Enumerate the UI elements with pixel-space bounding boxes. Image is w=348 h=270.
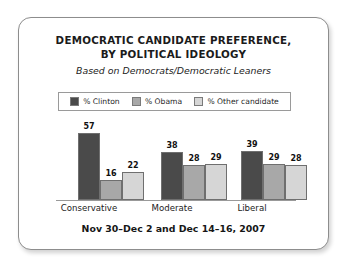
bar	[100, 180, 122, 200]
bar-value-label: 22	[127, 161, 138, 170]
bar-item: 38	[161, 122, 183, 200]
bar	[241, 151, 263, 200]
bar-item: 16	[100, 122, 122, 200]
chart-plot-area: 571622382829392928	[56, 122, 294, 200]
bar-item: 57	[78, 122, 100, 200]
bar	[205, 164, 227, 200]
bar-value-label: 29	[210, 153, 221, 162]
legend-item-other: % Other candidate	[194, 97, 278, 106]
bar	[78, 133, 100, 200]
bar-group-moderate: 382829	[161, 122, 227, 200]
bar-value-label: 38	[166, 141, 177, 150]
bar	[183, 165, 205, 200]
chart-card: DEMOCRATIC CANDIDATE PREFERENCE, BY POLI…	[18, 17, 329, 250]
legend-swatch-icon-clinton	[70, 97, 79, 106]
bar-item: 22	[122, 122, 144, 200]
bar-group-conservative: 571622	[78, 122, 144, 200]
page-title-line-2: BY POLITICAL IDEOLOGY	[19, 48, 328, 62]
bar-item: 29	[205, 122, 227, 200]
bar	[161, 152, 183, 200]
legend-label-obama: % Obama	[145, 97, 182, 106]
bar-value-label: 16	[105, 169, 116, 178]
bar-item: 29	[263, 122, 285, 200]
chart-footer-date: Nov 30–Dec 2 and Dec 14–16, 2007	[19, 223, 328, 234]
bar-value-label: 57	[83, 122, 94, 131]
bar	[122, 172, 144, 200]
legend-label-other: % Other candidate	[207, 97, 278, 106]
bar	[285, 165, 307, 200]
bar-value-label: 29	[268, 153, 279, 162]
chart-title-block: DEMOCRATIC CANDIDATE PREFERENCE, BY POLI…	[19, 34, 328, 77]
legend-swatch-icon-other	[194, 97, 203, 106]
chart-subtitle: Based on Democrats/Democratic Leaners	[19, 65, 328, 77]
page-title-line-1: DEMOCRATIC CANDIDATE PREFERENCE,	[19, 34, 328, 48]
legend-swatch-icon-obama	[132, 97, 141, 106]
legend-item-clinton: % Clinton	[70, 97, 119, 106]
x-axis-line	[56, 200, 296, 201]
bar	[263, 164, 285, 200]
bar-group-liberal: 392928	[241, 122, 307, 200]
bar-value-label: 39	[246, 140, 257, 149]
bar-value-label: 28	[290, 154, 301, 163]
bar-value-label: 28	[188, 154, 199, 163]
chart-legend: % Clinton % Obama % Other candidate	[58, 92, 291, 111]
bar-item: 28	[285, 122, 307, 200]
bar-item: 39	[241, 122, 263, 200]
category-label-liberal: Liberal	[202, 203, 302, 213]
bar-item: 28	[183, 122, 205, 200]
legend-label-clinton: % Clinton	[83, 97, 119, 106]
legend-item-obama: % Obama	[132, 97, 182, 106]
